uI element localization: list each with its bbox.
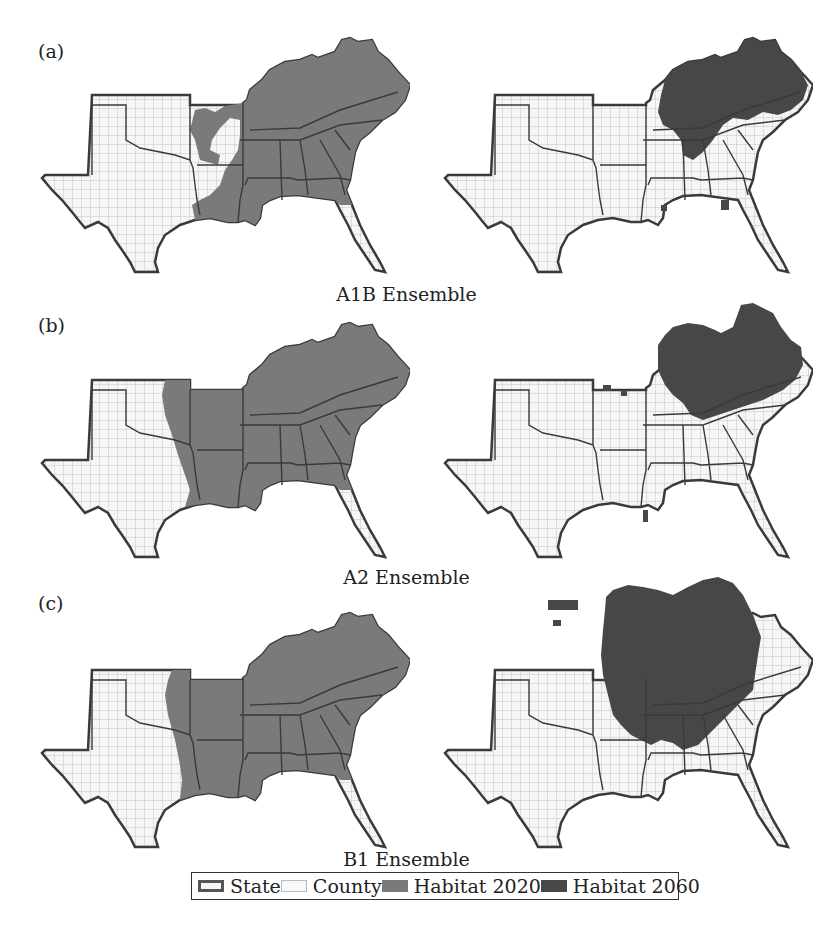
habitat-2060-swatch-icon xyxy=(541,880,567,892)
legend: State County Habitat 2020 Habitat 2060 xyxy=(191,872,679,900)
habitat-2020-swatch-icon xyxy=(382,880,408,892)
map-c-2060 xyxy=(403,575,813,860)
habitat-2020-region xyxy=(165,613,410,800)
scenario-label-c: B1 Ensemble xyxy=(0,848,813,870)
county-swatch-icon xyxy=(281,880,307,892)
map-c-2020 xyxy=(0,575,410,860)
habitat-2020-region xyxy=(162,323,410,510)
map-a-2020 xyxy=(0,0,410,285)
legend-item-state: State xyxy=(198,875,281,897)
map-a-2060 xyxy=(403,0,813,285)
map-b-2060 xyxy=(403,285,813,570)
map-b-2020 xyxy=(0,285,410,570)
state-swatch-icon xyxy=(198,880,224,892)
legend-item-habitat-2020: Habitat 2020 xyxy=(382,875,541,897)
legend-item-habitat-2060: Habitat 2060 xyxy=(541,875,700,897)
legend-item-county: County xyxy=(281,875,382,897)
